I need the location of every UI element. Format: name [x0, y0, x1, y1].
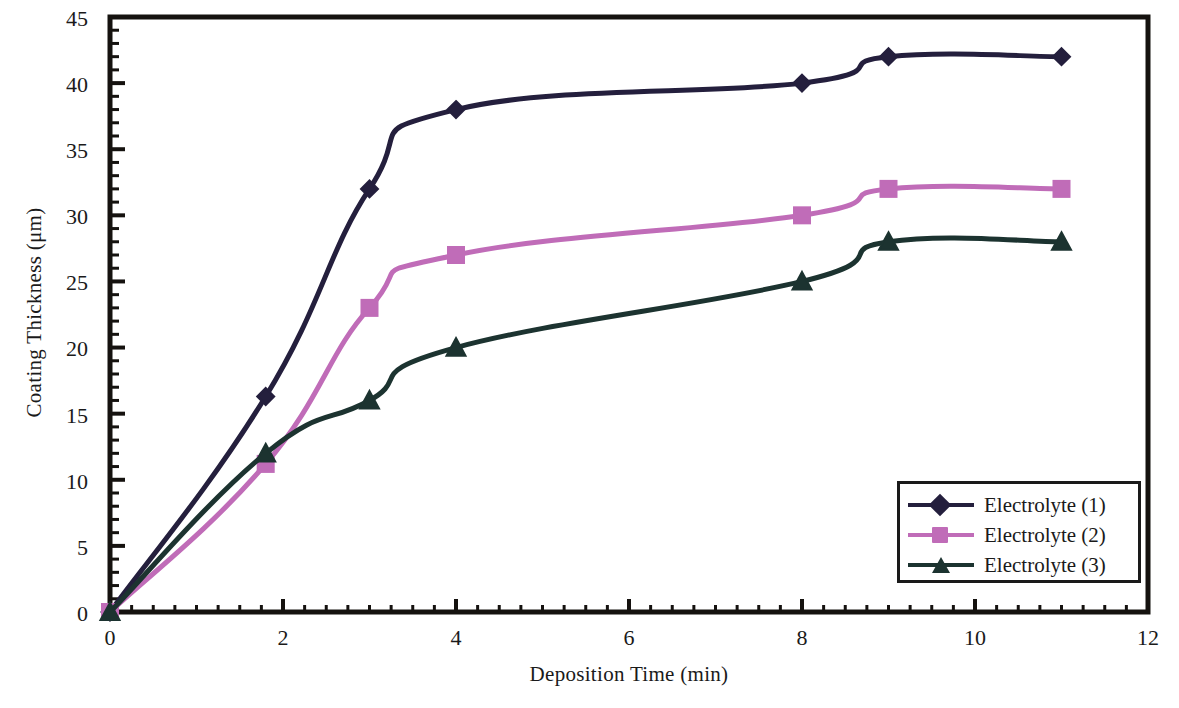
chart-figure: Coating Thickness (μm) Deposition Time (… — [0, 0, 1179, 708]
y-tick-label-15: 15 — [24, 403, 88, 429]
y-axis-label: Coating Thickness (μm) — [22, 133, 47, 493]
legend: Electrolyte (1) Electrolyte (2) Electrol… — [897, 481, 1141, 583]
x-tick-label-4: 4 — [426, 625, 486, 651]
x-tick-label-6: 6 — [599, 625, 659, 651]
legend-item-electrolyte-2: Electrolyte (2) — [908, 520, 1130, 550]
y-tick-label-40: 40 — [24, 72, 88, 98]
x-tick-label-0: 0 — [80, 625, 140, 651]
x-tick-label-12: 12 — [1118, 625, 1178, 651]
x-tick-label-2: 2 — [253, 625, 313, 651]
legend-swatch-2 — [908, 524, 974, 546]
y-tick-label-45: 45 — [24, 6, 88, 32]
legend-label-2: Electrolyte (2) — [974, 523, 1106, 548]
legend-item-electrolyte-1: Electrolyte (1) — [908, 490, 1130, 520]
y-tick-label-25: 25 — [24, 270, 88, 296]
y-tick-label-35: 35 — [24, 138, 88, 164]
legend-swatch-1 — [908, 494, 974, 516]
x-tick-label-10: 10 — [945, 625, 1005, 651]
x-tick-label-8: 8 — [772, 625, 832, 651]
legend-item-electrolyte-3: Electrolyte (3) — [908, 550, 1130, 580]
y-tick-label-0: 0 — [24, 601, 88, 627]
legend-label-1: Electrolyte (1) — [974, 493, 1106, 518]
y-tick-label-5: 5 — [24, 535, 88, 561]
y-tick-label-10: 10 — [24, 469, 88, 495]
plot-canvas — [0, 0, 1179, 708]
y-tick-label-30: 30 — [24, 204, 88, 230]
legend-swatch-3 — [908, 554, 974, 576]
legend-label-3: Electrolyte (3) — [974, 553, 1106, 578]
x-axis-label: Deposition Time (min) — [110, 662, 1148, 687]
y-tick-label-20: 20 — [24, 336, 88, 362]
